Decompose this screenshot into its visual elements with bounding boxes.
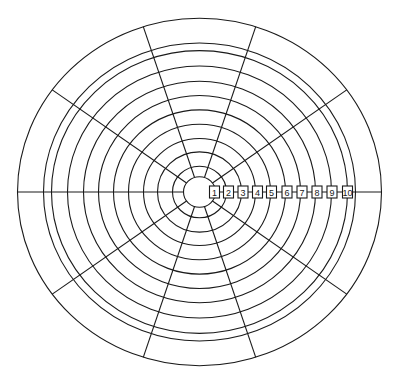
spoke-line: [212, 90, 346, 183]
spoke-line: [52, 90, 186, 183]
spoke-line: [143, 27, 194, 178]
scale-marker-3: 3: [238, 186, 248, 198]
scale-label: 8: [314, 188, 319, 198]
scale-label: 10: [342, 188, 352, 198]
scale-marker-10: 10: [342, 186, 352, 198]
scale-marker-5: 5: [267, 186, 277, 198]
scale-label: 1: [212, 188, 217, 198]
scale-label: 2: [226, 188, 231, 198]
spoke-line: [204, 207, 255, 358]
scale-label: 4: [255, 188, 260, 198]
scale-label: 5: [269, 188, 274, 198]
scale-label: 3: [240, 188, 245, 198]
scale-label: 6: [284, 188, 289, 198]
scale-label: 9: [329, 188, 334, 198]
spoke-line: [52, 201, 186, 294]
scale-marker-9: 9: [327, 186, 337, 198]
spoke-line: [143, 207, 194, 358]
wheel-diagram: 12345678910: [0, 0, 397, 376]
scale-marker-7: 7: [297, 186, 307, 198]
scale-marker-4: 4: [253, 186, 263, 198]
spoke-line: [212, 201, 346, 294]
scale-label: 7: [299, 188, 304, 198]
scale-marker-2: 2: [224, 186, 234, 198]
scale-marker-8: 8: [312, 186, 322, 198]
spoke-line: [204, 27, 255, 178]
scale-marker-1: 1: [210, 186, 220, 198]
scale-marker-6: 6: [282, 186, 292, 198]
